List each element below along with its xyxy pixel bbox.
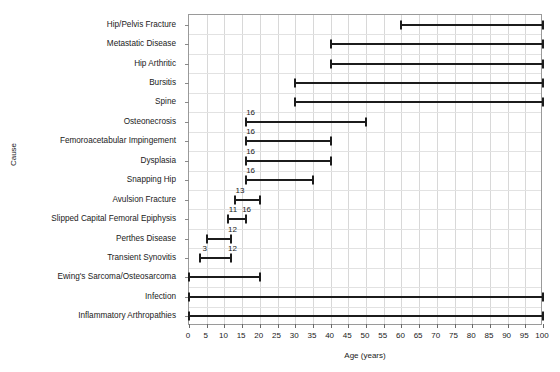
range-bar-start-cap [400, 20, 402, 29]
y-axis-tick [185, 239, 189, 240]
range-bar-end-cap [542, 312, 544, 321]
grid-line-vertical [313, 15, 314, 324]
y-axis-category-label: Hip Arthritic [134, 58, 176, 67]
x-axis-tick-label: 20 [254, 331, 263, 340]
y-axis-category-label: Dysplasia [141, 155, 177, 164]
range-bar-end-cap [312, 176, 314, 185]
range-bar-start-cap [330, 40, 332, 49]
grid-line-vertical [455, 15, 456, 324]
data-point-label: 16 [246, 147, 255, 156]
x-axis-tick [401, 324, 402, 328]
x-axis-tick [437, 324, 438, 328]
range-bar-end-cap [542, 292, 544, 301]
x-axis-tick-label: 45 [343, 331, 352, 340]
range-bar-start-cap [294, 98, 296, 107]
x-axis-tick-label: 80 [467, 331, 476, 340]
grid-line-horizontal [189, 307, 541, 308]
y-axis-category-label: Femoroacetabular Impingement [60, 136, 176, 145]
y-axis-tick [185, 219, 189, 220]
x-axis-tick [331, 324, 332, 328]
range-bar-start-cap [245, 137, 247, 146]
range-bar-start-cap [294, 79, 296, 88]
range-bar [246, 140, 331, 142]
grid-line-vertical [472, 15, 473, 324]
x-axis-tick [472, 324, 473, 328]
grid-line-horizontal [189, 93, 541, 94]
y-axis-category-label: Spine [155, 97, 176, 106]
y-axis-category-label: Transient Synovitis [107, 252, 176, 261]
grid-line-vertical [366, 15, 367, 324]
x-axis-tick [207, 324, 208, 328]
range-bar [295, 101, 543, 103]
range-bar-end-cap [330, 156, 332, 165]
range-bar [200, 257, 232, 259]
x-axis-tick [366, 324, 367, 328]
y-axis-category-label: Avulsion Fracture [112, 194, 176, 203]
range-bar [331, 43, 543, 45]
range-bar-start-cap [245, 117, 247, 126]
range-bar [189, 315, 543, 317]
y-axis-category-label: Infection [145, 291, 176, 300]
data-point-label: 16 [246, 166, 255, 175]
range-bar [207, 238, 232, 240]
y-axis-tick [185, 141, 189, 142]
x-axis-tick [490, 324, 491, 328]
y-axis-category-labels: Hip/Pelvis FractureMetastatic DiseaseHip… [10, 0, 184, 372]
x-axis-tick-labels: 0510152025303540455055606570758085909510… [188, 331, 542, 343]
grid-line-horizontal [189, 248, 541, 249]
x-axis-tick-label: 50 [361, 331, 370, 340]
x-axis-tick [419, 324, 420, 328]
x-axis-tick-label: 10 [219, 331, 228, 340]
range-bar [246, 121, 366, 123]
range-bar-start-cap [188, 292, 190, 301]
grid-line-vertical [437, 15, 438, 324]
y-axis-tick [185, 258, 189, 259]
grid-line-vertical [401, 15, 402, 324]
y-axis-tick [185, 83, 189, 84]
grid-line-horizontal [189, 34, 541, 35]
y-axis-category-label: Slipped Capital Femoral Epiphysis [51, 214, 176, 223]
range-bar [331, 63, 543, 65]
range-bar [295, 82, 543, 84]
y-axis-tick [185, 64, 189, 65]
grid-line-horizontal [189, 171, 541, 172]
x-axis-tick [242, 324, 243, 328]
range-bar [246, 160, 331, 162]
x-axis-tick-label: 30 [290, 331, 299, 340]
x-axis-tick [278, 324, 279, 328]
range-bar [228, 218, 246, 220]
grid-line-vertical [490, 15, 491, 324]
grid-line-horizontal [189, 132, 541, 133]
range-bar-end-cap [542, 40, 544, 49]
grid-line-vertical [278, 15, 279, 324]
data-point-label: 3 [202, 244, 206, 253]
y-axis-category-label: Hip/Pelvis Fracture [107, 19, 176, 28]
range-bar-start-cap [188, 273, 190, 282]
grid-line-vertical [348, 15, 349, 324]
x-axis-tick-label: 40 [325, 331, 334, 340]
range-bar-end-cap [542, 20, 544, 29]
grid-line-vertical [295, 15, 296, 324]
y-axis-category-label: Ewing's Sarcoma/Osteosarcoma [57, 272, 176, 281]
data-point-label: 13 [236, 186, 245, 195]
x-axis-tick-label: 5 [203, 331, 207, 340]
y-axis-category-label: Inflammatory Arthropathies [78, 311, 176, 320]
x-axis-tick-label: 60 [396, 331, 405, 340]
y-axis-tick [185, 200, 189, 201]
y-axis-category-label: Metastatic Disease [107, 39, 176, 48]
x-axis-tick-label: 65 [414, 331, 423, 340]
x-axis-tick [525, 324, 526, 328]
grid-line-horizontal [189, 112, 541, 113]
grid-line-horizontal [189, 268, 541, 269]
range-bar-start-cap [245, 156, 247, 165]
x-axis-tick [455, 324, 456, 328]
x-axis-tick-label: 95 [520, 331, 529, 340]
range-bar-start-cap [188, 312, 190, 321]
x-axis-tick-label: 55 [378, 331, 387, 340]
range-bar-end-cap [542, 98, 544, 107]
x-axis-tick-label: 85 [484, 331, 493, 340]
range-bar [246, 179, 313, 181]
x-axis-tick-label: 15 [237, 331, 246, 340]
plot-area: 1616161613111612312 [188, 14, 542, 325]
range-bar-start-cap [234, 195, 236, 204]
